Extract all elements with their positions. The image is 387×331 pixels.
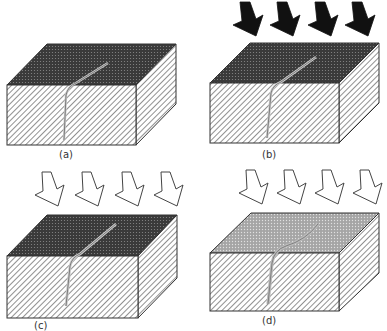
- hollow-arrows: [239, 170, 382, 204]
- panel-label: (b): [262, 149, 276, 160]
- solid-arrow-icon: [345, 2, 375, 36]
- solid-arrows: [233, 2, 375, 36]
- front-face: [7, 256, 138, 318]
- hollow-arrow-icon: [353, 170, 382, 204]
- crack-block-diagram: (a) (b) (c): [0, 0, 387, 331]
- panel-label: (a): [59, 149, 73, 160]
- hollow-arrow-icon: [75, 172, 104, 206]
- hollow-arrow-icon: [315, 170, 344, 204]
- hollow-arrow-icon: [239, 170, 268, 204]
- hollow-arrow-icon: [154, 172, 183, 206]
- hollow-arrows: [35, 172, 183, 206]
- solid-arrow-icon: [308, 2, 338, 36]
- hollow-arrow-icon: [115, 172, 144, 206]
- panel-d: (d): [210, 170, 382, 326]
- solid-arrow-icon: [270, 2, 300, 36]
- hollow-arrow-icon: [35, 172, 64, 206]
- solid-arrow-icon: [233, 2, 263, 36]
- panel-label: (d): [262, 315, 276, 326]
- panel-label: (c): [34, 320, 47, 331]
- front-face: [7, 85, 136, 145]
- front-face: [210, 253, 339, 311]
- panel-a: (a): [7, 44, 176, 160]
- front-face: [210, 83, 339, 143]
- panel-c: (c): [7, 172, 183, 331]
- hollow-arrow-icon: [277, 170, 306, 204]
- panel-b: (b): [210, 2, 379, 160]
